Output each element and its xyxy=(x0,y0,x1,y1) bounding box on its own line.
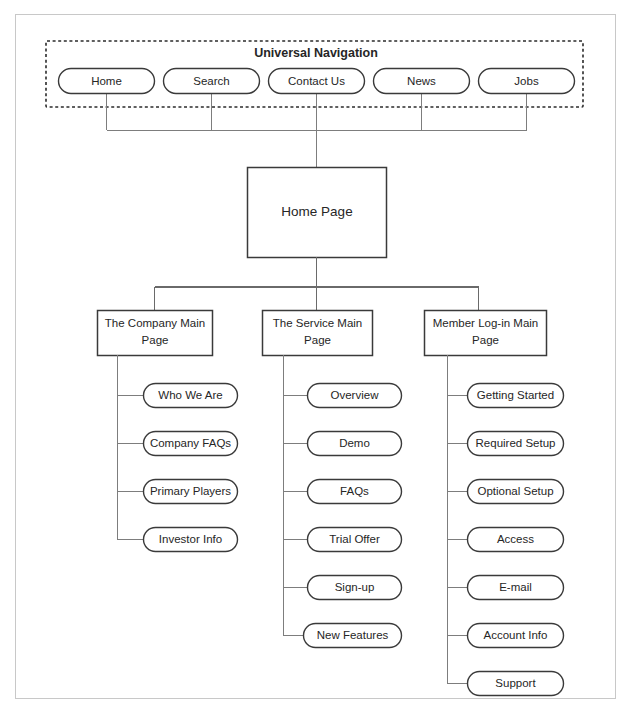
nav-pill-contact-us[interactable]: Contact Us xyxy=(269,69,365,94)
leaf-pill-overview-label: Overview xyxy=(331,389,380,401)
home-page-label: Home Page xyxy=(281,204,352,219)
leaf-pill-demo[interactable]: Demo xyxy=(308,432,402,456)
leaf-pill-primary-players[interactable]: Primary Players xyxy=(144,480,238,504)
nav-pill-home[interactable]: Home xyxy=(59,69,155,94)
leaf-pill-who-we-are-label: Who We Are xyxy=(158,389,222,401)
leaf-pill-who-we-are[interactable]: Who We Are xyxy=(144,384,238,408)
leaf-pill-account-info[interactable]: Account Info xyxy=(468,624,564,648)
leaf-pill-overview[interactable]: Overview xyxy=(308,384,402,408)
leaf-pill-new-features-label: New Features xyxy=(317,629,389,641)
leaf-pill-optional-setup[interactable]: Optional Setup xyxy=(468,480,564,504)
section-node-service[interactable]: The Service Main Page xyxy=(263,311,373,356)
leaf-pill-investor-info-label: Investor Info xyxy=(159,533,222,545)
nav-pill-search[interactable]: Search xyxy=(164,69,260,94)
leaf-pill-company-faqs[interactable]: Company FAQs xyxy=(144,432,238,456)
leaf-pill-company-faqs-label: Company FAQs xyxy=(150,437,231,449)
leaf-pill-required-setup[interactable]: Required Setup xyxy=(468,432,564,456)
leaf-pill-faqs-label: FAQs xyxy=(340,485,369,497)
leaf-pill-demo-label: Demo xyxy=(339,437,370,449)
leaf-pill-faqs[interactable]: FAQs xyxy=(308,480,402,504)
company-children-connectors xyxy=(118,355,144,540)
home-page-node[interactable]: Home Page xyxy=(248,168,387,258)
sitemap-diagram: Universal Navigation Home Search Contact… xyxy=(0,0,631,726)
section-node-member-login[interactable]: Member Log-in Main Page xyxy=(425,311,547,356)
leaf-pill-optional-setup-label: Optional Setup xyxy=(477,485,553,497)
service-children-connectors xyxy=(284,355,308,636)
universal-navigation-title: Universal Navigation xyxy=(254,46,378,60)
nav-pill-news[interactable]: News xyxy=(374,69,470,94)
section-node-company-label-line1: The Company Main xyxy=(105,317,205,329)
leaf-pill-access[interactable]: Access xyxy=(468,528,564,552)
leaf-pill-support-label: Support xyxy=(495,677,536,689)
member-login-children-connectors xyxy=(448,355,468,684)
leaf-pill-primary-players-label: Primary Players xyxy=(150,485,231,497)
nav-pill-news-label: News xyxy=(407,75,436,87)
leaf-pill-trial-offer[interactable]: Trial Offer xyxy=(308,528,402,552)
leaf-pill-sign-up-label: Sign-up xyxy=(335,581,375,593)
root-to-sections-connectors xyxy=(155,257,479,310)
leaf-pill-getting-started[interactable]: Getting Started xyxy=(468,384,564,408)
section-node-member-login-label-line1: Member Log-in Main xyxy=(433,317,538,329)
nav-pill-home-label: Home xyxy=(91,75,122,87)
section-node-member-login-label-line2: Page xyxy=(472,334,499,346)
section-node-service-label-line2: Page xyxy=(304,334,331,346)
nav-pill-jobs-label: Jobs xyxy=(514,75,539,87)
nav-pill-contact-us-label: Contact Us xyxy=(288,75,345,87)
leaf-pill-access-label: Access xyxy=(497,533,534,545)
section-node-service-label-line1: The Service Main xyxy=(273,317,362,329)
leaf-pill-e-mail[interactable]: E-mail xyxy=(468,576,564,600)
nav-pill-search-label: Search xyxy=(193,75,229,87)
leaf-pill-sign-up[interactable]: Sign-up xyxy=(308,576,402,600)
section-node-company-label-line2: Page xyxy=(142,334,169,346)
leaf-pill-investor-info[interactable]: Investor Info xyxy=(144,528,238,552)
leaf-pill-required-setup-label: Required Setup xyxy=(476,437,556,449)
nav-pill-jobs[interactable]: Jobs xyxy=(479,69,575,94)
leaf-pill-support[interactable]: Support xyxy=(468,672,564,696)
leaf-pill-new-features[interactable]: New Features xyxy=(304,624,402,648)
leaf-pill-getting-started-label: Getting Started xyxy=(477,389,554,401)
section-node-company[interactable]: The Company Main Page xyxy=(98,311,213,356)
leaf-pill-trial-offer-label: Trial Offer xyxy=(329,533,380,545)
universal-nav-connectors xyxy=(107,94,527,167)
leaf-pill-e-mail-label: E-mail xyxy=(499,581,532,593)
leaf-pill-account-info-label: Account Info xyxy=(484,629,548,641)
